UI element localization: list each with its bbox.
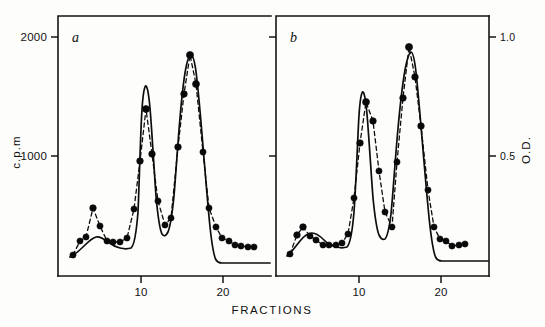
data-point [162,222,168,228]
panel-b-od-curve [287,52,488,261]
data-point [219,235,225,241]
data-point [370,118,377,125]
data-point [333,242,339,248]
panel-a-axes [51,16,271,283]
data-point [193,81,200,88]
data-point [405,43,412,50]
data-point [431,224,437,230]
ytick-label-1000: 1000 [21,150,47,162]
data-point [70,252,76,258]
panel-a-xtick-label-20: 20 [216,286,229,298]
data-point [357,140,364,147]
data-point [186,51,193,58]
data-point [389,224,395,230]
data-point [97,223,103,229]
data-point [238,243,244,249]
panel-a-frame [58,16,271,276]
data-point [149,151,156,158]
data-point [251,244,257,250]
data-point [181,91,188,98]
od-tick-label-05: 0.5 [500,150,515,162]
data-point [287,251,293,257]
data-point [294,232,301,239]
ytick-label-2000: 2000 [21,31,47,43]
data-point [226,238,232,244]
data-point [143,106,150,113]
data-point [245,244,251,250]
data-point [339,240,345,246]
data-point [137,158,144,165]
data-point [206,205,212,211]
data-point [418,123,425,130]
panel-b-label: b [290,30,297,45]
panel-a-cpm-markers [70,51,257,258]
data-point [363,99,370,106]
data-point [313,237,319,243]
data-point [175,144,182,151]
data-point [77,238,83,244]
data-point [394,159,400,165]
data-point [83,234,89,240]
panel-a-label: a [72,30,79,45]
panel-a-xtick-label-10: 10 [134,286,147,298]
data-point [232,242,238,248]
panel-b-cpm-curve [290,47,465,254]
data-point [412,74,419,81]
panel-b-xtick-label-20: 20 [434,286,447,298]
panel-a-od-curve [70,55,270,263]
data-point [462,241,468,247]
data-point [425,187,431,193]
data-point [213,224,219,230]
data-point [131,206,137,212]
panel-a-curves [70,51,270,263]
data-point [382,209,388,215]
data-point [443,238,449,244]
panel-b-xtick-label-10: 10 [352,286,365,298]
data-point [449,243,455,249]
data-point [400,95,407,102]
data-point [155,198,161,204]
data-point [307,233,313,239]
od-tick-label-10: 1.0 [500,31,515,43]
y-axis-label-right: O.D. [520,136,532,164]
x-axis-label: FRACTIONS [232,304,313,316]
data-point [168,215,174,221]
data-point [456,242,462,248]
data-point [437,236,443,242]
data-point [90,205,97,212]
panel-b-cpm-markers [287,43,468,257]
data-point [110,239,116,245]
data-point [351,195,357,201]
y-axis-label-left: c.p.m [10,135,22,169]
figure-container: 2000 1000 1.0 0.5 10 20 10 20 FRACTIONS … [0,0,545,327]
data-point [124,235,130,241]
scientific-figure: 2000 1000 1.0 0.5 10 20 10 20 FRACTIONS … [0,0,545,327]
data-point [104,238,110,244]
data-point [117,239,123,245]
data-point [320,242,326,248]
data-point [376,168,382,174]
data-point [200,149,206,155]
data-point [300,224,307,231]
panel-b-curves [287,43,488,261]
data-point [326,242,332,248]
data-point [345,231,351,237]
